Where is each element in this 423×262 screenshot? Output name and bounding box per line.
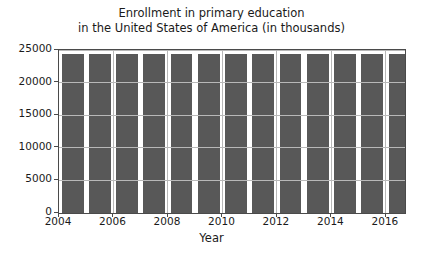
gridline-horizontal: [59, 82, 405, 83]
x-axis-tick-label: 2010: [208, 215, 235, 227]
gridline-horizontal: [59, 115, 405, 116]
y-axis-tick-label: 5000: [25, 172, 52, 184]
gridline-vertical: [331, 50, 332, 213]
gridline-vertical: [222, 50, 223, 213]
bar: [389, 54, 405, 213]
y-axis-tick-mark: [54, 81, 58, 82]
gridline-vertical: [113, 50, 114, 213]
x-axis-tick-label: 2012: [263, 215, 290, 227]
bar: [62, 54, 84, 213]
bar: [307, 54, 329, 213]
y-axis-tick-mark: [54, 49, 58, 50]
bar: [361, 54, 383, 213]
bar: [198, 54, 220, 213]
x-axis-label: Year: [0, 231, 423, 245]
y-axis-tick-label: 10000: [19, 140, 52, 152]
bar: [116, 54, 138, 213]
gridline-vertical: [385, 50, 386, 213]
x-axis-tick-label: 2014: [317, 215, 344, 227]
y-axis-tick-mark: [54, 114, 58, 115]
bar: [171, 54, 193, 213]
gridline-horizontal: [59, 180, 405, 181]
x-axis-tick-label: 2008: [154, 215, 181, 227]
y-axis-tick-label: 25000: [19, 42, 52, 54]
bar: [143, 54, 165, 213]
chart-figure: Enrollment in primary education in the U…: [0, 0, 423, 262]
gridline-vertical: [167, 50, 168, 213]
plot-inner: [59, 50, 405, 213]
x-axis-tick-label: 2004: [45, 215, 72, 227]
gridline-vertical: [276, 50, 277, 213]
gridline-horizontal: [59, 50, 405, 51]
chart-title: Enrollment in primary education in the U…: [0, 6, 423, 35]
y-axis-tick-label: 20000: [19, 75, 52, 87]
y-axis-tick-mark: [54, 179, 58, 180]
plot-area: [58, 49, 406, 214]
x-axis-tick-label: 2016: [372, 215, 399, 227]
bar: [252, 54, 274, 213]
bar: [89, 54, 111, 213]
gridline-horizontal: [59, 147, 405, 148]
y-axis-tick-mark: [54, 146, 58, 147]
y-axis-tick-label: 15000: [19, 107, 52, 119]
bar: [334, 54, 356, 213]
x-axis-tick-label: 2006: [99, 215, 126, 227]
bar: [280, 54, 302, 213]
bar: [225, 54, 247, 213]
